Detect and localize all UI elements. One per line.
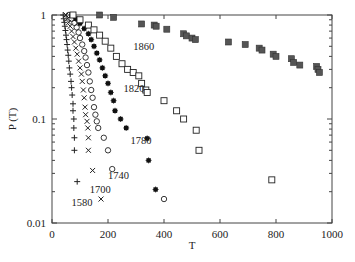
y-tick-label: 0.1: [32, 113, 46, 125]
series-label-1700: 1700: [90, 184, 111, 195]
y-axis-label: P (T): [6, 107, 19, 130]
series-label-1860: 1860: [133, 41, 154, 52]
series-label-1780: 1780: [130, 135, 151, 146]
x-axis-label: T: [189, 239, 196, 251]
series-label-1820: 1820: [123, 83, 144, 94]
x-tick-label: 0: [49, 228, 55, 240]
chart: 02004006008001000 0.010.11 1580170017401…: [0, 0, 355, 262]
y-tick-label: 1: [41, 9, 47, 21]
x-tick-label: 1000: [321, 228, 344, 240]
series-label-1740: 1740: [108, 170, 129, 181]
x-tick-label: 200: [100, 228, 117, 240]
x-tick-label: 600: [212, 228, 229, 240]
series-labels: 158017001740178018201860: [72, 41, 155, 207]
x-tick-label: 800: [268, 228, 285, 240]
data-points: [60, 12, 322, 202]
x-tick-label: 400: [156, 228, 173, 240]
y-tick-label: 0.01: [27, 217, 46, 229]
series-label-1580: 1580: [72, 197, 93, 208]
